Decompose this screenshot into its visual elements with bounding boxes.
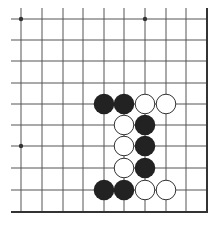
star-point-icon [19,144,23,148]
white-stone[interactable] [156,180,176,200]
white-stone[interactable] [114,158,134,178]
black-stone[interactable] [94,180,115,201]
black-stone[interactable] [114,94,135,115]
star-point-icon [19,17,23,21]
black-stone[interactable] [114,180,135,201]
black-stone[interactable] [135,158,156,179]
white-stone[interactable] [114,115,134,135]
go-board[interactable] [0,0,218,227]
black-stone[interactable] [135,115,156,136]
black-stone[interactable] [135,136,156,157]
white-stone[interactable] [156,94,176,114]
star-point-icon [143,17,147,21]
white-stone[interactable] [114,136,134,156]
white-stone[interactable] [135,180,155,200]
black-stone[interactable] [94,94,115,115]
white-stone[interactable] [135,94,155,114]
